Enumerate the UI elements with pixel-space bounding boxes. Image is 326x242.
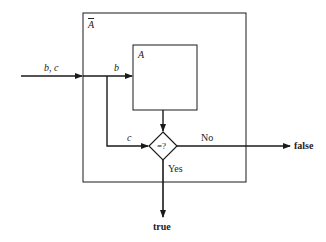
diagram-lines [0, 0, 326, 242]
flowchart-diagram: A A b, c b c =? No Yes false true [0, 0, 326, 242]
false-output-label: false [294, 141, 313, 151]
yes-label: Yes [168, 164, 183, 174]
input-label: b, c [44, 63, 58, 73]
outer-box-label: A [88, 20, 94, 30]
branch-c-label: c [127, 133, 131, 143]
branch-b-label: b [114, 63, 119, 73]
inner-box-label: A [138, 50, 144, 60]
decision-label: =? [157, 141, 166, 151]
true-output-label: true [153, 222, 171, 232]
no-label: No [201, 133, 213, 143]
